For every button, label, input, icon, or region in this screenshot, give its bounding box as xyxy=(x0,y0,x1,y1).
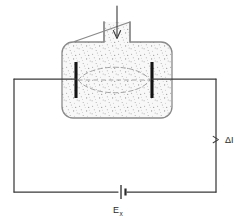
source-label: E xyxy=(113,205,119,215)
source-label-subscript: x xyxy=(120,210,124,217)
current-label: ΔI xyxy=(225,135,234,145)
battery-icon xyxy=(121,185,126,199)
diagram-canvas: ΔI E x xyxy=(0,0,245,221)
circuit-diagram-figure: ΔI E x xyxy=(0,0,245,221)
